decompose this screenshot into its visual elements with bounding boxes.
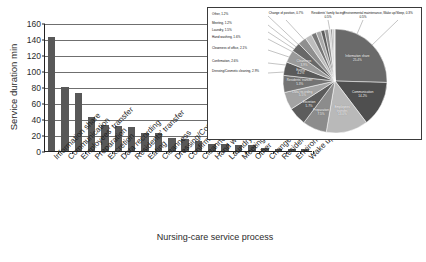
pie-callout-text: Hand washing, 1.6% (212, 35, 240, 39)
pie-slice-label: Excretion5.7% (303, 102, 316, 109)
pie-slice-label-pct: 3.9% (300, 63, 307, 67)
pie-slice-label: Cleanness3.9% (297, 61, 312, 68)
pie-slice-label-pct: 13.0% (338, 112, 347, 116)
bar (48, 37, 55, 151)
pie-callout-text: Other, 1.2% (212, 12, 228, 16)
y-axis-tick-label: 60 (32, 99, 41, 109)
y-axis-tick-label: 40 (32, 115, 41, 125)
pie-callout-top: Wake up/Sleep, 0.3% (378, 12, 418, 16)
y-axis-title-text: Service duration min (8, 44, 19, 131)
pie-callout-text: Change of position, 0.7% (269, 11, 304, 15)
pie-slice-label-pct: 4.2% (297, 72, 304, 76)
pie-callout-text: Confirmation, 2.6% (212, 59, 238, 63)
pie-callout-text: Residents' family facing, 0.5% (311, 11, 344, 19)
y-axis-tick-label: 140 (27, 35, 41, 45)
pie-callout-top: Environmental maintenance, 0.5% (343, 12, 383, 19)
pie-slice-label-pct: 5.5% (299, 94, 306, 98)
pie-callout-left: Confirmation, 2.6% (212, 60, 238, 64)
pie-callout-text: Environmental maintenance, 0.5% (343, 11, 382, 19)
pie-slice-label: Data recording5.5% (292, 91, 312, 98)
pie-slice-label: Eating4.2% (296, 69, 305, 76)
pie-callout-top: Residents' family facing, 0.5% (308, 12, 348, 19)
y-axis-tick-label: 100 (27, 67, 41, 77)
y-axis-tick-label: 20 (32, 131, 41, 141)
pie-slice-label-pct: 5.7% (306, 104, 313, 108)
pie-slice-label-pct: 14.2% (358, 94, 367, 98)
bar-slot (58, 24, 71, 151)
pie-chart-panel: Information share25.4%Communication14.2%… (207, 7, 422, 140)
y-axis-tick-label: 160 (27, 19, 41, 29)
pie-callout-text: Meeting, 1.2% (212, 21, 232, 25)
pie-slice-label-pct: 7.5% (318, 112, 325, 116)
pie-slice-label: Residents' transfer5.3% (287, 79, 313, 86)
pie-callout-left: Meeting, 1.2% (212, 22, 232, 26)
pie-slice-label-pct: 5.3% (296, 82, 303, 86)
pie-slice-label: Information share25.4% (345, 56, 369, 63)
pie-callout-left: Dressing/Cosmetic cleaning, 2.9% (212, 70, 259, 74)
pie-callout-left: Other, 1.2% (212, 13, 228, 17)
x-axis-title: Nursing-care service process (120, 232, 310, 242)
y-axis-tick-label: 80 (32, 83, 41, 93)
pie-slice-label: Employees'transfer,13.0% (334, 106, 350, 117)
y-axis-tick-label: 0 (36, 147, 41, 157)
pie-callout-left: Laundry, 1.5% (212, 29, 232, 33)
pie-slice-label: Communication14.2% (352, 92, 374, 99)
pie-slice-label-pct: 25.4% (353, 58, 362, 62)
pie-chart: Information share25.4%Communication14.2%… (282, 28, 388, 134)
pie-slice-label: Preparation7.5% (313, 110, 329, 117)
pie-callout-left: Cleanness of office, 2.1% (212, 47, 247, 51)
bar-slot (45, 24, 58, 151)
pie-callout-left: Hand washing, 1.6% (212, 36, 240, 40)
pie-callout-text: Wake up/Sleep, 0.3% (383, 11, 413, 15)
y-axis-tick-mark (42, 152, 45, 153)
y-axis-tick-label: 120 (27, 51, 41, 61)
pie-callout-top: Change of position, 0.7% (266, 12, 306, 16)
y-axis-title: Service duration min (6, 22, 20, 152)
pie-callout-text: Laundry, 1.5% (212, 28, 232, 32)
figure: Service duration min 0204060801001201401… (0, 0, 426, 262)
pie-callout-text: Dressing/Cosmetic cleaning, 2.9% (212, 69, 259, 73)
pie-callout-text: Cleanness of office, 2.1% (212, 46, 247, 50)
